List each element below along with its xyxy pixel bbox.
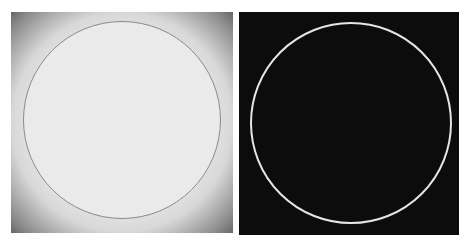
edge-detected-image xyxy=(239,12,459,235)
original-grayscale-image xyxy=(11,12,233,233)
circular-object xyxy=(23,21,221,219)
detected-circle-edge xyxy=(250,22,452,224)
